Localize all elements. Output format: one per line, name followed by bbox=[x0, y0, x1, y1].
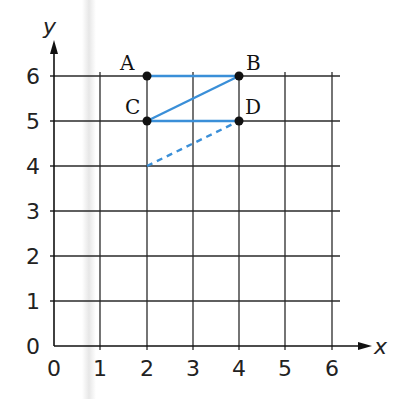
svg-text:1: 1 bbox=[93, 356, 107, 381]
svg-text:5: 5 bbox=[26, 109, 40, 134]
point-c bbox=[143, 117, 152, 126]
svg-text:4: 4 bbox=[26, 154, 40, 179]
grid-lines bbox=[50, 72, 340, 350]
svg-text:3: 3 bbox=[186, 356, 200, 381]
y-tick-labels: 6 5 4 3 2 1 0 bbox=[26, 64, 40, 359]
svg-text:2: 2 bbox=[26, 244, 40, 269]
point-a bbox=[143, 72, 152, 81]
point-label-d: D bbox=[245, 95, 261, 119]
grid-svg: y x 6 5 4 3 2 1 0 0 1 2 3 4 5 6 bbox=[0, 0, 409, 399]
y-axis-arrow-icon bbox=[50, 40, 58, 54]
svg-text:1: 1 bbox=[26, 289, 40, 314]
svg-text:4: 4 bbox=[232, 356, 246, 381]
x-axis-label: x bbox=[373, 334, 388, 359]
y-axis-label: y bbox=[42, 14, 57, 39]
svg-text:2: 2 bbox=[140, 356, 154, 381]
x-tick-labels: 0 1 2 3 4 5 6 bbox=[47, 356, 339, 381]
svg-text:0: 0 bbox=[47, 356, 61, 381]
svg-text:3: 3 bbox=[26, 199, 40, 224]
x-axis-arrow-icon bbox=[358, 342, 372, 350]
point-label-a: A bbox=[119, 51, 135, 75]
svg-text:5: 5 bbox=[278, 356, 292, 381]
point-label-b: B bbox=[246, 51, 261, 75]
point-d bbox=[235, 117, 244, 126]
svg-text:0: 0 bbox=[26, 334, 40, 359]
point-b bbox=[235, 72, 244, 81]
coordinate-grid-diagram: y x 6 5 4 3 2 1 0 0 1 2 3 4 5 6 bbox=[0, 0, 409, 399]
svg-text:6: 6 bbox=[325, 356, 339, 381]
point-label-c: C bbox=[125, 95, 140, 119]
svg-text:6: 6 bbox=[26, 64, 40, 89]
